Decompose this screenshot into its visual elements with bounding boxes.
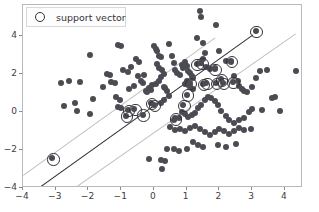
- data-point: [87, 52, 93, 58]
- data-point: [213, 22, 219, 28]
- support-vector-ring: [250, 26, 262, 38]
- support-vector-ring: [137, 109, 149, 121]
- y-tick-label: −2: [2, 144, 17, 154]
- data-point: [140, 80, 146, 86]
- data-point: [272, 94, 278, 100]
- data-point: [223, 113, 229, 119]
- x-tick: [284, 187, 285, 190]
- data-point: [100, 84, 106, 90]
- y-tick-label: 4: [2, 30, 17, 40]
- data-point: [277, 108, 283, 114]
- data-point: [117, 97, 123, 103]
- x-tick: [186, 187, 187, 190]
- x-tick: [87, 187, 88, 190]
- data-point: [194, 35, 200, 41]
- data-point: [200, 144, 206, 150]
- data-point: [158, 54, 164, 60]
- plot-area: [22, 4, 302, 187]
- data-point: [90, 96, 96, 102]
- data-point: [198, 14, 204, 20]
- data-point: [58, 80, 64, 86]
- x-tick: [218, 187, 219, 190]
- data-point: [215, 142, 221, 148]
- legend-box: support vector: [26, 7, 126, 27]
- data-point: [159, 166, 165, 172]
- x-tick: [55, 187, 56, 190]
- data-point: [259, 107, 265, 113]
- data-point: [66, 78, 72, 84]
- data-point: [197, 8, 203, 14]
- x-tick-label: 4: [281, 191, 287, 201]
- data-point: [141, 72, 147, 78]
- y-tick-label: 2: [2, 68, 17, 78]
- x-tick: [22, 187, 23, 190]
- data-point: [177, 72, 183, 78]
- data-point: [74, 108, 80, 114]
- data-point: [202, 50, 208, 56]
- data-point: [61, 103, 67, 109]
- y-tick: [19, 149, 22, 150]
- data-point: [248, 126, 254, 132]
- data-point: [128, 64, 134, 70]
- data-point: [153, 81, 159, 87]
- x-tick-label: 2: [216, 191, 222, 201]
- data-point: [236, 117, 242, 123]
- x-tick-label: −2: [81, 191, 94, 201]
- data-point: [107, 72, 113, 78]
- x-tick-label: 1: [183, 191, 189, 201]
- x-tick-label: −3: [48, 191, 61, 201]
- data-point: [223, 144, 229, 150]
- x-tick: [251, 187, 252, 190]
- support-vector-ring: [149, 100, 161, 112]
- x-tick-label: 0: [150, 191, 156, 201]
- data-point: [112, 80, 118, 86]
- data-point: [87, 111, 93, 117]
- data-point: [216, 48, 222, 54]
- data-point: [241, 127, 247, 133]
- y-tick: [19, 35, 22, 36]
- y-tick: [19, 187, 22, 188]
- x-tick: [153, 187, 154, 190]
- data-point: [131, 83, 137, 89]
- open-circle-marker-icon: [35, 12, 45, 22]
- data-point: [246, 109, 252, 115]
- data-point: [162, 158, 168, 164]
- legend-label: support vector: [56, 12, 126, 23]
- data-point: [171, 60, 177, 66]
- x-tick-label: 3: [248, 191, 254, 201]
- data-point: [166, 41, 172, 47]
- data-point: [249, 84, 255, 90]
- support-vector-ring: [47, 153, 59, 165]
- data-point: [136, 59, 142, 65]
- data-layer: [23, 5, 301, 186]
- data-point: [253, 75, 259, 81]
- data-point: [233, 141, 239, 147]
- y-tick: [19, 111, 22, 112]
- data-point: [218, 108, 224, 114]
- x-tick-label: −4: [15, 191, 28, 201]
- data-point: [72, 100, 78, 106]
- support-vector-ring: [196, 58, 208, 70]
- data-point: [118, 43, 124, 49]
- data-point: [257, 68, 263, 74]
- y-tick: [19, 73, 22, 74]
- data-point: [293, 68, 299, 74]
- data-point: [176, 148, 182, 154]
- support-vector-ring: [182, 89, 194, 101]
- x-tick: [120, 187, 121, 190]
- data-point: [184, 146, 190, 152]
- footer-caption: [0, 205, 319, 212]
- support-vector-ring: [227, 77, 239, 89]
- chart-root: −4−3−2−101234−4−2024 support vector: [0, 0, 319, 212]
- data-point: [146, 156, 152, 162]
- data-point: [164, 146, 170, 152]
- data-point: [77, 79, 83, 85]
- y-tick-label: −4: [2, 182, 17, 192]
- data-point: [169, 53, 175, 59]
- data-point: [244, 89, 250, 95]
- y-tick-label: 0: [2, 106, 17, 116]
- x-tick-label: −1: [114, 191, 127, 201]
- support-vector-ring: [170, 113, 182, 125]
- data-point: [264, 67, 270, 73]
- support-vector-ring: [226, 56, 238, 68]
